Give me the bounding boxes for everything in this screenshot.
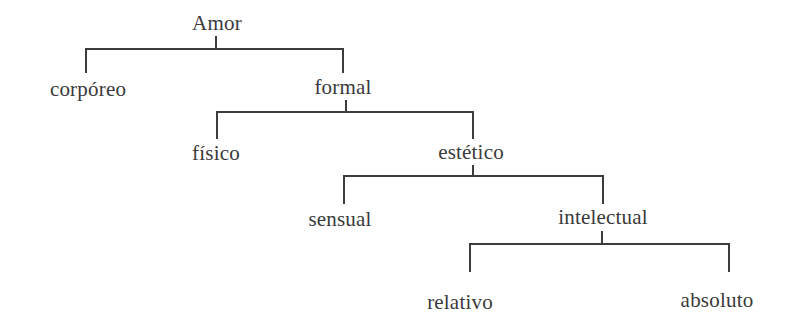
node-intelectual: intelectual [558,207,648,228]
node-amor: Amor [192,13,242,34]
node-absoluto: absoluto [681,290,754,311]
node-relativo: relativo [427,292,493,313]
tree-connectors [0,0,796,330]
node-sensual: sensual [308,209,371,230]
node-estetico: estético [438,142,504,163]
node-corporeo: corpóreo [50,79,126,100]
node-formal: formal [314,77,371,98]
node-fisico: físico [192,143,240,164]
classification-tree: Amor corpóreo formal físico estético sen… [0,0,796,330]
